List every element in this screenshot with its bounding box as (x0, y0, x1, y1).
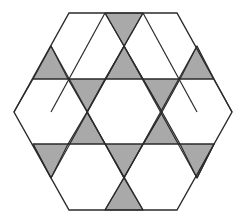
figure-canvas (0, 0, 247, 220)
gray-triangle (143, 112, 180, 144)
gray-triangle (180, 46, 214, 79)
gray-triangle (68, 79, 105, 112)
gray-triangle (105, 46, 143, 79)
gray-triangle (68, 112, 105, 144)
kagome-hexagon-figure (0, 0, 247, 220)
gray-triangle (105, 13, 143, 46)
gray-triangle (143, 79, 180, 112)
gray-triangle (180, 144, 214, 178)
gray-triangle (105, 178, 143, 210)
gray-triangle (105, 144, 143, 178)
gray-triangle (33, 46, 68, 79)
gray-triangles-layer (33, 13, 214, 210)
gray-triangle (33, 144, 68, 178)
